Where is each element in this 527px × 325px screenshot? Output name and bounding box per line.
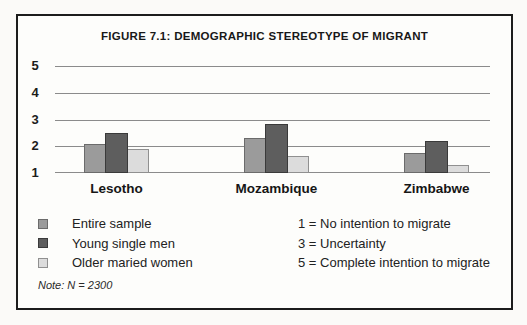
legend-scale-list: 1 = No intention to migrate3 = Uncertain… [298, 214, 501, 273]
figure-note: Note: N = 2300 [38, 279, 112, 291]
legend-series-list: Entire sampleYoung single menOlder marie… [38, 214, 298, 273]
legend-swatch-2 [38, 238, 48, 248]
y-tick-label-4: 4 [25, 85, 45, 101]
bar-zimbabwe-series-2 [425, 141, 448, 173]
legend-label-2: Young single men [72, 236, 175, 251]
bar-lesotho-series-1 [84, 144, 107, 173]
y-tick-label-3: 3 [25, 112, 45, 128]
gridline-4 [55, 93, 490, 94]
bar-mozambique-series-1 [244, 138, 267, 173]
figure-box: FIGURE 7.1: DEMOGRAPHIC STEREOTYPE OF MI… [16, 14, 513, 310]
bar-lesotho-series-2 [105, 133, 128, 173]
y-tick-label-1: 1 [25, 165, 45, 181]
legend-scale-item-2: 3 = Uncertainty [298, 234, 501, 254]
y-tick-label-5: 5 [25, 58, 45, 74]
legend-item-3: Older maried women [38, 253, 298, 273]
gridline-5 [55, 66, 490, 67]
bar-lesotho-series-3 [126, 149, 149, 173]
category-label-lesotho: Lesotho [90, 181, 143, 196]
bar-zimbabwe-series-1 [404, 153, 427, 173]
legend-scale-item-1: 1 = No intention to migrate [298, 214, 501, 234]
legend-label-3: Older maried women [72, 255, 193, 270]
category-label-mozambique: Mozambique [236, 181, 318, 196]
chart-legend: Entire sampleYoung single menOlder marie… [38, 214, 501, 273]
legend-swatch-3 [38, 258, 48, 268]
gridline-3 [55, 120, 490, 121]
legend-item-2: Young single men [38, 234, 298, 254]
bar-zimbabwe-series-3 [446, 165, 469, 173]
figure-title: FIGURE 7.1: DEMOGRAPHIC STEREOTYPE OF MI… [18, 30, 511, 42]
category-label-zimbabwe: Zimbabwe [403, 181, 469, 196]
bar-mozambique-series-2 [265, 124, 288, 173]
y-tick-label-2: 2 [25, 138, 45, 154]
bar-mozambique-series-3 [286, 156, 309, 173]
legend-swatch-1 [38, 219, 48, 229]
legend-label-1: Entire sample [72, 216, 151, 231]
legend-item-1: Entire sample [38, 214, 298, 234]
legend-scale-item-3: 5 = Complete intention to migrate [298, 253, 501, 273]
bar-chart-plot-area: 54321LesothoMozambiqueZimbabwe [55, 66, 490, 173]
